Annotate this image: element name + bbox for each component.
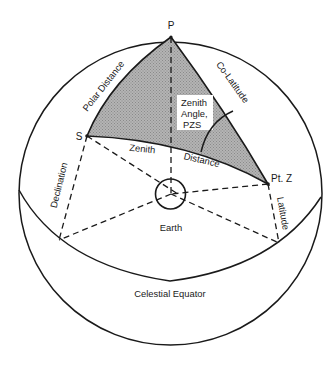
celestial-sphere-diagram: P S Pt. Z Polar Distance Co-Latitude Zen… — [0, 0, 333, 365]
earth-to-right-equator-dashed-line — [171, 194, 279, 243]
celestial-equator-curve — [19, 190, 321, 281]
declination-label: Declination — [48, 161, 70, 209]
zenith-angle-label-line2: Angle, — [181, 108, 208, 119]
star-point — [85, 134, 89, 138]
latitude-label: Latitude — [275, 196, 292, 231]
pole-point — [169, 35, 172, 38]
star-label: S — [76, 131, 83, 142]
earth-label: Earth — [160, 222, 182, 233]
latitude-dashed-line — [268, 184, 279, 243]
co-latitude-label: Co-Latitude — [214, 59, 251, 105]
zenith-distance-label-part1: Zenith — [129, 142, 156, 156]
zenith-angle-label-line1: Zenith — [181, 97, 207, 108]
earth-to-left-equator-dashed-line — [59, 194, 171, 240]
pole-label: P — [168, 20, 175, 31]
zenith-angle-label-line3: PZS — [183, 119, 201, 130]
celestial-equator-label: Celestial Equator — [134, 288, 205, 299]
zenith-point-label: Pt. Z — [271, 173, 292, 184]
zenith-point — [266, 182, 270, 186]
